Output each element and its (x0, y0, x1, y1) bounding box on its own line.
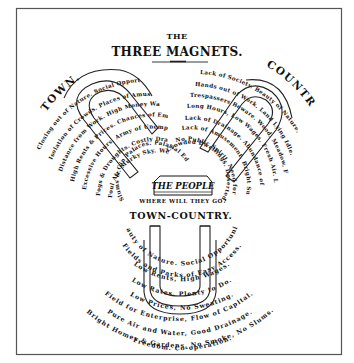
country-row: Trespassers Beware. Wood, Meadow, Forest… (0, 0, 289, 174)
the-people-group: THE PEOPLE WHERE WILL THEY GO? (138, 176, 227, 204)
town-row: Slums & Gin Palaces. Palatial Edifices. (0, 0, 190, 202)
title-the: THE (166, 31, 187, 41)
three-magnets-diagram: THE THREE MAGNETS. TOWN. Closing out of … (0, 0, 354, 363)
where-will-they-go-label: WHERE WILL THEY GO? (138, 198, 227, 204)
title-three-magnets: THREE MAGNETS. (111, 45, 242, 59)
town-magnet-group: TOWN. Closing out of Nature. Social Oppo… (0, 0, 190, 202)
town-country-heading: TOWN-COUNTRY. (130, 210, 233, 221)
the-people-label: THE PEOPLE (152, 181, 215, 191)
